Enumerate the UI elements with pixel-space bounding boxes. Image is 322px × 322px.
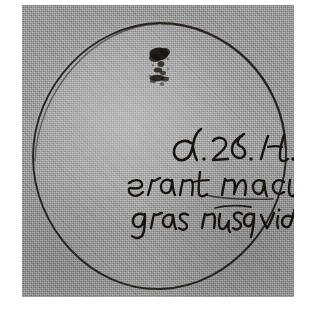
inscription-line-1	[174, 129, 294, 161]
handwritten-annotation	[127, 127, 294, 239]
manuscript-plate	[22, 5, 294, 297]
image-caption: Hand-drawn solar disk with sunspot and L…	[0, 0, 1, 1]
sunspot-drawing-page: d. 28. H. erant macu gras nusq vide Hand…	[0, 0, 322, 322]
inscription-line-1-text: d. 28. H.	[0, 0, 1, 1]
inscription-line-3	[132, 197, 294, 238]
sunspot-icon	[141, 45, 185, 97]
inscription-line-2-text: erant macu	[0, 0, 1, 1]
inscription-line-3-text: gras nusq vide	[0, 0, 1, 1]
inscription-line-2	[129, 172, 294, 202]
